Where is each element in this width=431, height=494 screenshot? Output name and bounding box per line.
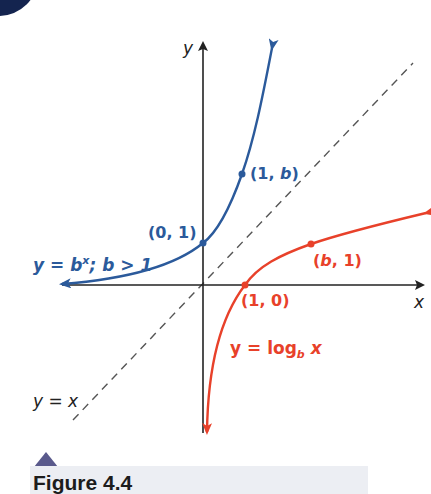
label-point-1-b: (1, b) xyxy=(250,166,299,182)
point-1-0 xyxy=(242,282,249,289)
y-axis-label: y xyxy=(183,40,193,57)
equation-text: y = log xyxy=(230,338,297,358)
equation-text: y = b xyxy=(33,255,82,275)
point-1-b xyxy=(239,171,246,178)
label-text: (1, xyxy=(250,164,280,183)
label-point-0-1: (0, 1) xyxy=(148,225,197,241)
function-graph xyxy=(0,0,431,494)
identity-line xyxy=(73,63,413,420)
equation-text: x xyxy=(305,338,322,358)
caption-marker-icon xyxy=(34,452,58,467)
label-var: b xyxy=(280,164,291,183)
point-b-1 xyxy=(308,241,315,248)
equation-base: b xyxy=(297,348,305,361)
point-0-1 xyxy=(200,240,207,247)
figure-caption: Figure 4.4 xyxy=(33,471,132,494)
x-axis-label: x xyxy=(414,294,424,311)
equation-text: ; b > 1 xyxy=(89,255,152,275)
exponential-curve xyxy=(62,48,272,284)
label-text: , 1) xyxy=(332,251,362,270)
logarithmic-curve xyxy=(207,213,426,432)
identity-equation: y = x xyxy=(33,393,78,410)
label-var: b xyxy=(320,251,331,270)
log-equation: y = logb x xyxy=(230,340,322,360)
label-text: ) xyxy=(292,164,299,183)
label-point-b-1: (b, 1) xyxy=(313,253,362,269)
exponential-equation: y = bx; b > 1 xyxy=(33,255,152,274)
label-point-1-0: (1, 0) xyxy=(241,293,290,309)
